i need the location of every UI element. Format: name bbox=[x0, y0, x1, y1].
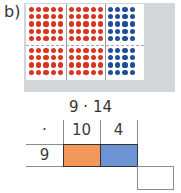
product-cell-tens[interactable] bbox=[63, 144, 101, 167]
dot bbox=[130, 55, 135, 60]
dot bbox=[91, 7, 96, 12]
red-dot-block bbox=[69, 7, 105, 43]
dot bbox=[108, 29, 113, 34]
dot bbox=[108, 21, 113, 26]
blue-dot-block bbox=[108, 7, 137, 43]
row-label: 9 bbox=[26, 146, 63, 164]
dot bbox=[43, 29, 48, 34]
dot bbox=[130, 70, 135, 75]
dot bbox=[36, 7, 41, 12]
dot bbox=[29, 29, 34, 34]
dot bbox=[122, 62, 127, 67]
dot bbox=[43, 21, 48, 26]
dot bbox=[115, 36, 120, 41]
dot bbox=[58, 70, 63, 75]
dot bbox=[43, 55, 48, 60]
dot bbox=[76, 55, 81, 60]
dot bbox=[51, 29, 56, 34]
dot bbox=[130, 14, 135, 19]
dot bbox=[122, 14, 127, 19]
header-tens: 10 bbox=[63, 121, 100, 139]
dot bbox=[115, 55, 120, 60]
operator-cell: · bbox=[26, 121, 63, 139]
dot bbox=[29, 36, 34, 41]
dot bbox=[29, 21, 34, 26]
dot bbox=[91, 14, 96, 19]
dot bbox=[130, 48, 135, 53]
dot bbox=[58, 29, 63, 34]
dot bbox=[108, 70, 113, 75]
dot bbox=[83, 14, 88, 19]
dot bbox=[108, 48, 113, 53]
exercise-label: b) bbox=[4, 2, 20, 21]
dot bbox=[98, 21, 103, 26]
dot bbox=[108, 55, 113, 60]
dot bbox=[108, 62, 113, 67]
dot bbox=[91, 55, 96, 60]
dot bbox=[29, 55, 34, 60]
dot bbox=[108, 7, 113, 12]
dot bbox=[115, 29, 120, 34]
dot bbox=[83, 62, 88, 67]
dot bbox=[76, 29, 81, 34]
dot bbox=[98, 55, 103, 60]
dot bbox=[36, 70, 41, 75]
dot bbox=[69, 21, 74, 26]
dot bbox=[51, 55, 56, 60]
dot bbox=[122, 48, 127, 53]
dot bbox=[115, 62, 120, 67]
dot bbox=[36, 21, 41, 26]
dot bbox=[76, 21, 81, 26]
dot bbox=[122, 36, 127, 41]
dot bbox=[76, 7, 81, 12]
dot bbox=[122, 70, 127, 75]
result-box[interactable] bbox=[137, 166, 174, 190]
dot bbox=[98, 7, 103, 12]
vertical-divider bbox=[100, 120, 101, 144]
block-divider bbox=[66, 4, 67, 80]
dot bbox=[69, 14, 74, 19]
dot bbox=[51, 70, 56, 75]
dot bbox=[108, 36, 113, 41]
dot-array-panel bbox=[26, 4, 144, 80]
dot bbox=[130, 36, 135, 41]
dot bbox=[36, 14, 41, 19]
blue-dot-block bbox=[108, 48, 137, 77]
dot bbox=[69, 48, 74, 53]
dot bbox=[76, 70, 81, 75]
header-ones: 4 bbox=[100, 121, 137, 139]
dot bbox=[83, 70, 88, 75]
dot bbox=[69, 36, 74, 41]
dot bbox=[36, 36, 41, 41]
dot bbox=[98, 14, 103, 19]
dot bbox=[98, 70, 103, 75]
dot bbox=[83, 7, 88, 12]
vertical-divider bbox=[137, 120, 138, 144]
dot bbox=[91, 36, 96, 41]
dot bbox=[51, 48, 56, 53]
dot bbox=[91, 48, 96, 53]
product-cell-ones[interactable] bbox=[100, 144, 138, 167]
row-divider bbox=[26, 45, 144, 46]
dot bbox=[115, 14, 120, 19]
dot bbox=[83, 21, 88, 26]
dot bbox=[76, 36, 81, 41]
dot bbox=[122, 55, 127, 60]
dot bbox=[115, 70, 120, 75]
dot bbox=[130, 29, 135, 34]
dot bbox=[83, 29, 88, 34]
block-divider bbox=[105, 4, 106, 80]
dot bbox=[43, 36, 48, 41]
red-dot-block bbox=[29, 7, 65, 43]
dot bbox=[76, 14, 81, 19]
dot bbox=[43, 48, 48, 53]
dot bbox=[29, 48, 34, 53]
dot bbox=[51, 14, 56, 19]
dot bbox=[58, 21, 63, 26]
dot bbox=[122, 7, 127, 12]
dot bbox=[43, 70, 48, 75]
dot bbox=[58, 48, 63, 53]
dot bbox=[51, 62, 56, 67]
dot bbox=[122, 21, 127, 26]
dot bbox=[91, 70, 96, 75]
